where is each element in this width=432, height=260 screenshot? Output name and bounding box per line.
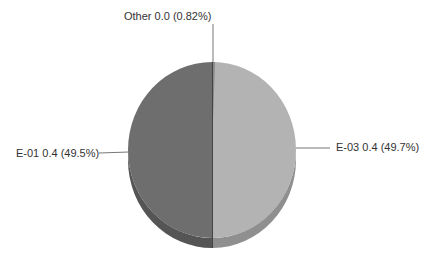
label-e03: E-03 0.4 (49.7%) xyxy=(336,141,419,154)
label-e01: E-01 0.4 (49.5%) xyxy=(16,147,99,160)
leader-e01 xyxy=(99,152,129,153)
slice-e03[interactable] xyxy=(213,62,296,238)
label-other: Other 0.0 (0.82%) xyxy=(124,10,211,23)
pie-chart xyxy=(0,0,432,260)
slice-e01[interactable] xyxy=(128,62,212,238)
